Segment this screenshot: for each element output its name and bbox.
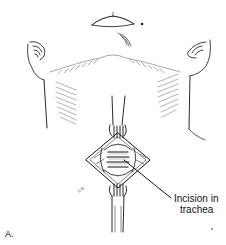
neck-outline-drawing (44, 76, 205, 140)
incision-callout-label: Incision in trachea (174, 193, 224, 215)
neck-shading-drawing (56, 74, 178, 124)
left-ear-drawing (28, 42, 45, 80)
trachea-upper-drawing (109, 96, 126, 138)
jawline-drawing (50, 55, 180, 74)
callout-leader-line (124, 160, 171, 198)
chin-drawing (118, 33, 131, 46)
right-ear-drawing (188, 40, 211, 76)
callout-line-1: Incision in (174, 193, 224, 204)
lips-drawing (92, 12, 143, 27)
callout-line-2: trachea (174, 204, 224, 215)
trachea-lower-drawing (109, 184, 126, 232)
incision-site-drawing (86, 133, 150, 188)
panel-label: A. (5, 229, 14, 240)
